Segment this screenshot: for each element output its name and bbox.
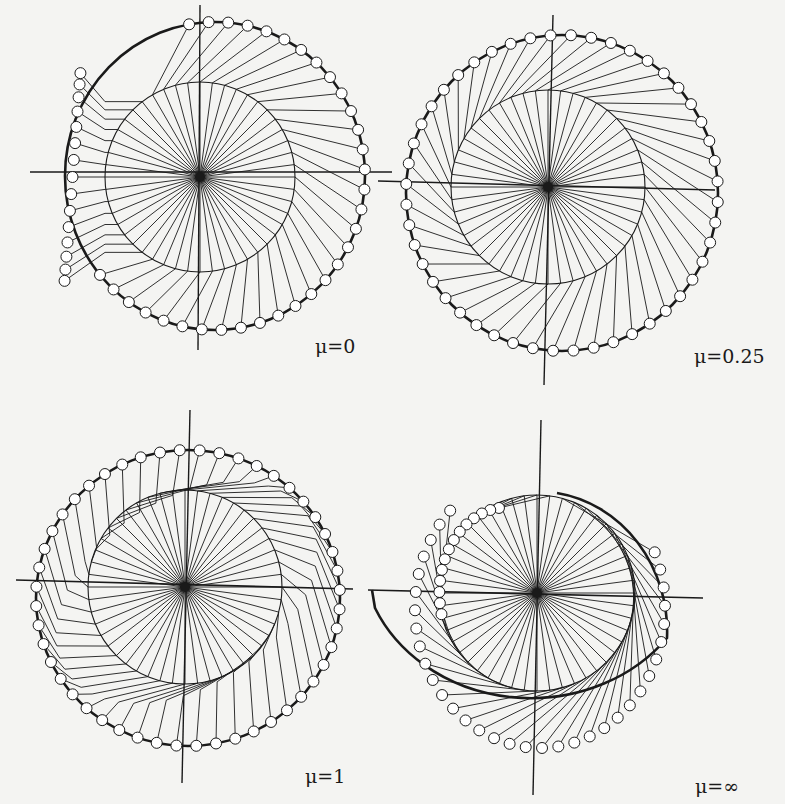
center-point (543, 182, 553, 192)
trajectory-segment (164, 22, 209, 89)
trajectory-segment (202, 269, 225, 330)
boundary-marker (644, 671, 655, 682)
boundary-marker (649, 547, 660, 558)
boundary-marker (673, 82, 684, 93)
ray (153, 177, 201, 259)
ray (185, 493, 210, 587)
trajectory-segment (613, 256, 616, 343)
ray (452, 593, 537, 642)
trajectory-segment (406, 205, 464, 236)
ray (200, 177, 282, 225)
boundary-marker (81, 703, 92, 714)
ray (133, 177, 200, 244)
boundary-marker (411, 623, 422, 634)
boundary-marker (660, 305, 671, 316)
trajectory-segment (415, 245, 480, 256)
ray (108, 177, 200, 202)
ray (185, 539, 269, 588)
boundary-marker (508, 338, 519, 349)
boundary-marker (428, 276, 439, 287)
boundary-marker (71, 121, 82, 132)
trajectory-segment (594, 264, 607, 348)
trajectory-segment (433, 271, 499, 282)
boundary-marker (235, 322, 246, 333)
ray (548, 187, 573, 281)
boundary-marker (455, 307, 466, 318)
boundary-marker (326, 642, 337, 653)
boundary-marker (584, 731, 595, 742)
boundary-marker (505, 38, 516, 49)
boundary-marker (565, 30, 576, 41)
ray (548, 187, 617, 256)
outer-boundary (65, 22, 365, 330)
boundary-marker (233, 453, 244, 464)
boundary-marker (140, 307, 151, 318)
ray (442, 593, 537, 618)
boundary-marker (296, 44, 307, 55)
boundary-marker (537, 742, 548, 753)
trajectory-segment (100, 259, 152, 275)
boundary-marker (311, 57, 322, 68)
boundary-marker (685, 99, 696, 110)
boundary-marker (520, 742, 531, 753)
boundary-marker (426, 101, 437, 112)
boundary-marker (61, 251, 72, 262)
boundary-marker (401, 178, 412, 189)
ray (200, 177, 225, 269)
boundary-marker (33, 620, 44, 631)
ray (185, 587, 234, 671)
ray (137, 503, 186, 587)
boundary-marker (45, 657, 56, 668)
boundary-marker (448, 703, 459, 714)
boundary-marker (60, 264, 71, 275)
boundary-marker (248, 726, 259, 737)
trajectory-segment (258, 252, 260, 323)
boundary-marker (151, 737, 162, 748)
ray (200, 177, 292, 202)
boundary-marker (568, 345, 579, 356)
boundary-marker (350, 223, 361, 234)
boundary-marker (599, 723, 610, 734)
boundary-marker (268, 470, 279, 481)
boundary-marker (404, 220, 415, 231)
boundary-marker (410, 586, 421, 597)
boundary-marker (331, 623, 342, 634)
boundary-marker (548, 345, 559, 356)
boundary-marker (356, 204, 367, 215)
boundary-marker (605, 37, 616, 48)
ray (452, 544, 537, 593)
boundary-marker (553, 741, 564, 752)
trajectory-segment (432, 106, 452, 174)
boundary-marker (84, 480, 95, 491)
ray (200, 130, 282, 178)
trajectory-segment (433, 680, 524, 690)
trajectory-segment (80, 73, 142, 101)
boundary-marker (417, 259, 428, 270)
boundary-marker (612, 712, 623, 723)
ray (537, 593, 586, 678)
trajectory-segment (607, 110, 701, 122)
boundary-marker (261, 26, 272, 37)
boundary-marker (569, 737, 580, 748)
trajectory-segment (63, 514, 88, 587)
boundary-marker (608, 337, 619, 348)
boundary-marker (434, 586, 445, 597)
center-point (532, 588, 542, 598)
boundary-marker (327, 546, 338, 557)
ray (512, 593, 537, 688)
boundary-marker (69, 494, 80, 505)
boundary-marker (196, 324, 207, 335)
boundary-marker (712, 176, 723, 187)
trajectory-segment (460, 281, 523, 313)
panel-label-mu-infinity: μ=∞ (695, 775, 739, 797)
boundary-marker (651, 654, 662, 665)
boundary-marker (31, 601, 42, 612)
panel-label-mu-1: μ=1 (305, 765, 345, 787)
boundary-marker (31, 581, 42, 592)
boundary-marker (434, 598, 445, 609)
boundary-marker (290, 300, 301, 311)
trajectory-segment (221, 265, 236, 330)
ray (537, 593, 632, 618)
panel-p4 (368, 420, 703, 795)
boundary-marker (414, 641, 425, 652)
